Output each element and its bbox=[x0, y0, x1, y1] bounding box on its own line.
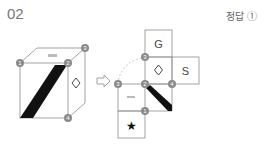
cube-net-diagram: 1 2 3 4 G S ★ 3 3 2 4 1 bbox=[0, 0, 269, 151]
net-g-label: G bbox=[154, 38, 163, 50]
cube-stripe bbox=[20, 65, 67, 118]
net-s-label: S bbox=[182, 65, 189, 77]
fold-arc bbox=[118, 57, 145, 84]
cube-right-face bbox=[68, 48, 85, 118]
star-icon: ★ bbox=[126, 119, 137, 133]
net-small-glyph bbox=[127, 96, 135, 98]
net-stripe bbox=[146, 85, 172, 111]
net-diamond-icon bbox=[155, 65, 163, 75]
cube-top-glyph bbox=[48, 54, 57, 57]
net-face-diamond bbox=[145, 57, 172, 84]
cube-diamond-icon bbox=[72, 78, 80, 88]
arrow-right-icon bbox=[97, 75, 110, 87]
